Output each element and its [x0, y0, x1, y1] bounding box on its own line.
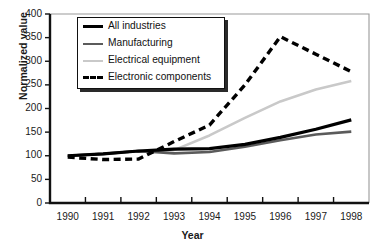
y-tick-label: 100 [8, 149, 42, 160]
y-tick-label: 350 [8, 31, 42, 42]
y-tick-label: 300 [8, 55, 42, 66]
series-line-electrical-equipment [68, 81, 352, 156]
legend: All industries Manufacturing Electrical … [77, 17, 225, 89]
legend-swatch-icon-electronic-components [83, 76, 103, 79]
legend-swatch-icon-all-industries [83, 25, 103, 28]
legend-item-electrical-equipment: Electrical equipment [83, 52, 224, 69]
legend-swatch-icon-manufacturing [83, 43, 103, 45]
y-tick-label: 150 [8, 126, 42, 137]
y-tick-label: 250 [8, 78, 42, 89]
y-tick-label: 400 [8, 8, 42, 19]
legend-label-electronic-components: Electronic components [108, 72, 211, 82]
x-axis-title: Year [0, 229, 385, 241]
legend-swatch-icon-electrical-equipment [83, 60, 103, 62]
y-tick-label: 50 [8, 173, 42, 184]
legend-item-electronic-components: Electronic components [83, 69, 224, 86]
legend-label-manufacturing: Manufacturing [108, 38, 173, 48]
legend-item-all-industries: All industries [83, 18, 224, 35]
y-tick-label: 200 [8, 102, 42, 113]
x-tick-label: 1998 [329, 211, 373, 222]
legend-label-all-industries: All industries [108, 21, 166, 31]
legend-item-manufacturing: Manufacturing [83, 35, 224, 52]
y-tick-label: 0 [8, 197, 42, 208]
line-chart: Normalized value Year 050100150200250300… [0, 0, 385, 248]
legend-label-electrical-equipment: Electrical equipment [108, 55, 200, 65]
